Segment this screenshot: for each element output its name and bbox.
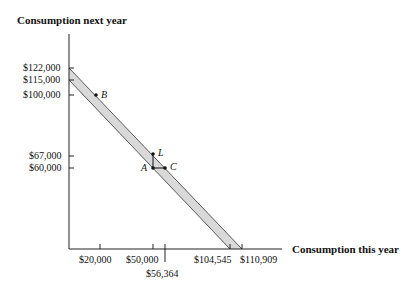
y-axis-title: Consumption next year xyxy=(17,14,127,26)
label-a: A xyxy=(141,162,147,173)
x-tick-110909: $110,909 xyxy=(240,254,277,265)
label-l: L xyxy=(158,147,164,158)
x-tick-104545: $104,545 xyxy=(194,254,232,265)
x-tick-50000: $50,000 xyxy=(126,254,159,265)
point-l xyxy=(151,152,155,156)
x-tick-20000: $20,000 xyxy=(79,254,112,265)
point-b xyxy=(94,93,98,97)
point-c xyxy=(163,166,167,170)
y-tick-67000: $67,000 xyxy=(29,150,62,161)
label-c: C xyxy=(170,161,177,172)
y-tick-122000: $122,000 xyxy=(23,62,61,73)
x-tick-56364: $56,364 xyxy=(146,268,179,279)
lower-budget-line xyxy=(69,80,230,249)
label-b: B xyxy=(101,89,107,100)
y-tick-100000: $100,000 xyxy=(23,89,61,100)
y-tick-60000: $60,000 xyxy=(29,162,62,173)
point-a xyxy=(151,166,155,170)
y-tick-115000: $115,000 xyxy=(23,74,60,85)
x-axis-title: Consumption this year xyxy=(292,243,399,255)
